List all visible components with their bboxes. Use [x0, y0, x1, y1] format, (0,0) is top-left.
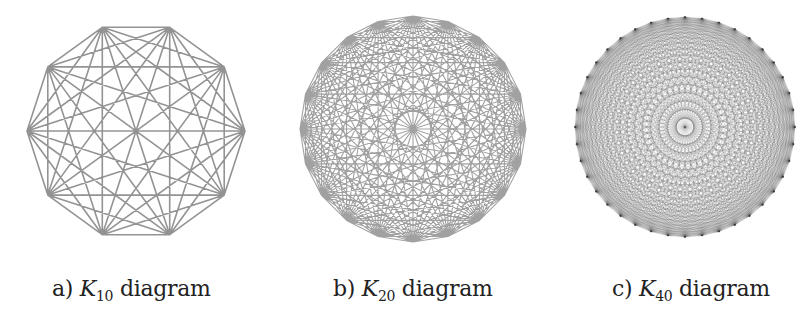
caption-suffix: diagram	[402, 276, 493, 301]
graph-edges	[575, 17, 795, 237]
graph-subscript: 10	[96, 288, 113, 304]
graph-symbol: K	[362, 276, 378, 301]
graph-subscript: 40	[655, 288, 672, 304]
caption-k10: a) K10 diagram	[52, 276, 211, 304]
complete-graph-k40	[0, 0, 807, 270]
caption-prefix: a)	[52, 276, 73, 301]
caption-k40: c) K40 diagram	[612, 276, 770, 304]
graph-symbol: K	[639, 276, 655, 301]
caption-k20: b) K20 diagram	[333, 276, 493, 304]
caption-prefix: b)	[333, 276, 355, 301]
caption-suffix: diagram	[679, 276, 770, 301]
graph-symbol: K	[80, 276, 96, 301]
caption-suffix: diagram	[120, 276, 211, 301]
graph-subscript: 20	[378, 288, 395, 304]
caption-prefix: c)	[612, 276, 632, 301]
